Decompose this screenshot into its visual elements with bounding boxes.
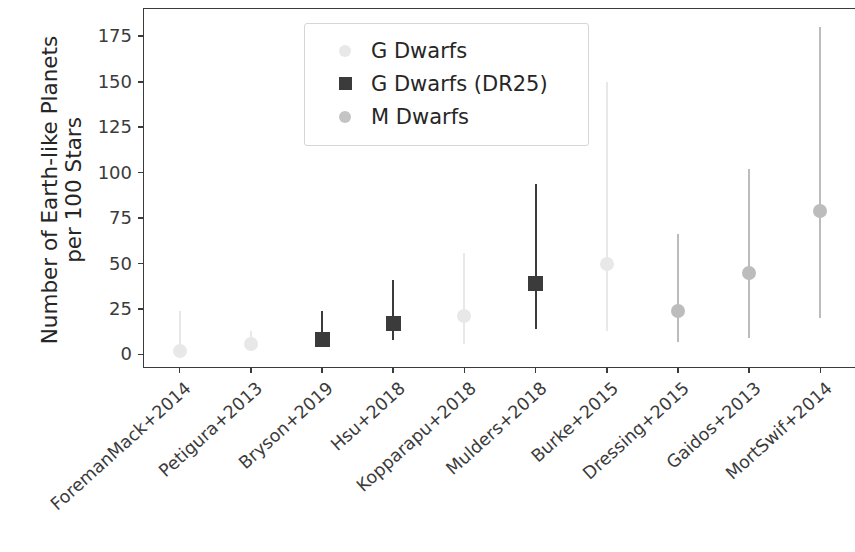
y-tick-mark: [138, 308, 144, 310]
marker-square: [386, 316, 401, 331]
legend-label: M Dwarfs: [371, 105, 469, 129]
legend-label: G Dwarfs: [371, 39, 467, 63]
y-tick-mark: [138, 35, 144, 37]
legend-marker-icon: [319, 111, 371, 123]
plot-area: 0255075100125150175 ForemanMack+2014Peti…: [143, 8, 855, 368]
marker-circle: [742, 266, 756, 280]
y-tick-label: 125: [86, 116, 132, 137]
marker-circle: [813, 204, 827, 218]
error-bar: [748, 169, 750, 338]
error-bar: [819, 27, 821, 318]
x-tick-mark: [535, 367, 537, 373]
x-tick-mark: [250, 367, 252, 373]
x-tick-mark: [748, 367, 750, 373]
x-tick-mark: [606, 367, 608, 373]
x-tick-mark: [392, 367, 394, 373]
marker-square: [528, 276, 543, 291]
marker-circle: [244, 337, 258, 351]
y-tick-label: 50: [86, 253, 132, 274]
y-tick-mark: [138, 263, 144, 265]
legend-square-icon: [339, 77, 352, 90]
y-tick-label: 175: [86, 25, 132, 46]
y-axis-title: Number of Earth-like Planets per 100 Sta…: [30, 25, 94, 355]
marker-square: [315, 332, 330, 347]
error-bar: [463, 253, 465, 344]
x-tick-mark: [820, 367, 822, 373]
legend-marker-icon: [319, 77, 371, 90]
legend-circle-icon: [339, 45, 351, 57]
marker-circle: [671, 304, 685, 318]
error-bar: [677, 234, 679, 341]
y-tick-mark: [138, 354, 144, 356]
y-axis-title-line-2: per 100 Stars: [62, 36, 86, 344]
legend-circle-icon: [339, 111, 351, 123]
y-axis-title-line-1: Number of Earth-like Planets: [38, 36, 62, 344]
chart-figure: Number of Earth-like Planets per 100 Sta…: [0, 0, 855, 552]
error-bar: [535, 184, 537, 329]
x-tick-label: ForemanMack+2014: [47, 378, 195, 514]
legend-label: G Dwarfs (DR25): [371, 72, 548, 96]
legend-marker-icon: [319, 45, 371, 57]
marker-circle: [173, 344, 187, 358]
x-tick-mark: [677, 367, 679, 373]
y-tick-label: 0: [86, 343, 132, 364]
marker-circle: [457, 309, 471, 323]
y-tick-mark: [138, 126, 144, 128]
y-tick-label: 150: [86, 71, 132, 92]
legend: G Dwarfs G Dwarfs (DR25) M Dwarfs: [304, 23, 589, 146]
y-tick-label: 100: [86, 162, 132, 183]
marker-circle: [600, 257, 614, 271]
legend-item: G Dwarfs (DR25): [319, 67, 574, 100]
legend-item: G Dwarfs: [319, 34, 574, 67]
x-tick-mark: [179, 367, 181, 373]
y-tick-mark: [138, 172, 144, 174]
y-tick-label: 25: [86, 298, 132, 319]
error-bar: [606, 82, 608, 331]
y-tick-mark: [138, 217, 144, 219]
x-tick-mark: [464, 367, 466, 373]
x-tick-label: Kopparapu+2018: [352, 378, 480, 496]
x-tick-mark: [321, 367, 323, 373]
y-tick-label: 75: [86, 207, 132, 228]
legend-item: M Dwarfs: [319, 100, 574, 133]
y-tick-mark: [138, 81, 144, 83]
